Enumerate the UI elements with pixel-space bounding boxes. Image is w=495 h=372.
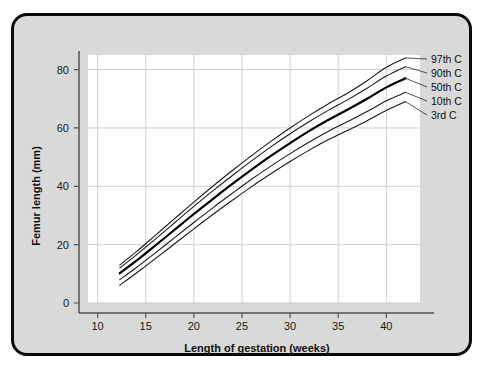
y-tick-label: 60: [57, 122, 69, 134]
y-tick-label: 20: [57, 239, 69, 251]
legend-label-10th-c: 10th C: [431, 95, 462, 107]
y-tick-label: 40: [57, 180, 69, 192]
x-tick-label: 15: [140, 320, 152, 332]
x-tick-label: 40: [380, 320, 392, 332]
femur-length-growth-chart: 10152025303540 020406080 97th C90th C50t…: [14, 16, 472, 356]
legend-label-3rd-c: 3rd C: [431, 109, 457, 121]
x-tick-label: 25: [236, 320, 248, 332]
legend-label-50th-c: 50th C: [431, 81, 462, 93]
y-axis-title: Femur length (mm): [30, 146, 42, 246]
legend-label-97th-c: 97th C: [431, 53, 462, 65]
legend: 97th C90th C50th C10th C3rd C: [431, 53, 462, 121]
x-tick-label: 10: [91, 320, 103, 332]
x-tick-label: 30: [284, 320, 296, 332]
screenshot-root: 10152025303540 020406080 97th C90th C50t…: [0, 0, 495, 372]
y-tick-labels: 020406080: [57, 64, 69, 309]
y-tick-label: 80: [57, 64, 69, 76]
x-axis-title: Length of gestation (weeks): [184, 342, 330, 354]
x-tick-label: 35: [332, 320, 344, 332]
x-tick-labels: 10152025303540: [91, 320, 392, 332]
legend-label-90th-c: 90th C: [431, 67, 462, 79]
figure-card: 10152025303540 020406080 97th C90th C50t…: [11, 13, 472, 356]
x-tick-label: 20: [188, 320, 200, 332]
y-tick-label: 0: [63, 297, 69, 309]
chart-container: 10152025303540 020406080 97th C90th C50t…: [14, 16, 472, 356]
